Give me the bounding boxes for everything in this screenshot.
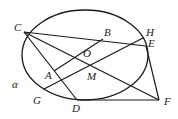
label-point-e: E	[148, 38, 155, 49]
figure-canvas	[0, 0, 178, 119]
segment-ab	[54, 39, 103, 71]
label-point-g: G	[33, 95, 41, 106]
label-point-d: D	[72, 103, 80, 114]
segment-ce	[24, 32, 146, 46]
segment-ef	[146, 46, 159, 100]
label-plane-alpha: α	[12, 79, 18, 90]
label-point-b: B	[104, 27, 111, 38]
label-point-m: M	[87, 71, 96, 82]
label-point-a: A	[45, 70, 52, 81]
label-point-c: C	[14, 22, 21, 33]
geometry-diagram: C B H E O A M G D F α	[0, 0, 178, 119]
label-point-o: O	[83, 48, 91, 59]
label-point-f: F	[164, 96, 171, 107]
segment-cd	[24, 32, 77, 100]
